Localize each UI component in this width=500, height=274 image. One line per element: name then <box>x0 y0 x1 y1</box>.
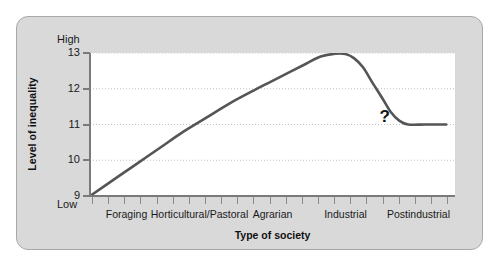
x-tick-mark <box>92 197 93 204</box>
x-tick-mark <box>447 197 448 204</box>
chart-figure: High Low Level of inequality 131211109 F… <box>0 0 500 274</box>
x-tick-mark <box>366 197 367 204</box>
x-tick-mark <box>221 197 222 204</box>
x-tick-mark <box>108 197 109 204</box>
y-tick-value: 12 <box>58 83 80 94</box>
x-tick-mark <box>205 197 206 204</box>
y-tick-value: 13 <box>58 47 80 58</box>
x-tick-mark <box>318 197 319 204</box>
y-tick-label: 9 <box>58 190 80 201</box>
x-axis-title: Type of society <box>90 229 455 241</box>
x-tick-mark <box>334 197 335 204</box>
x-tick-mark <box>173 197 174 204</box>
gridlines <box>90 53 455 196</box>
x-category-horticultural-pastoral: Horticultural/Pastoral <box>151 208 248 220</box>
y-tick-value: 9 <box>58 190 80 201</box>
question-mark-annotation: ? <box>379 108 389 125</box>
x-category-agrarian: Agrarian <box>253 208 293 220</box>
x-tick-mark <box>383 197 384 204</box>
x-tick-mark <box>124 197 125 204</box>
y-tick-value: 10 <box>58 154 80 165</box>
x-axis-line <box>89 195 455 197</box>
x-tick-mark <box>286 197 287 204</box>
x-tick-mark <box>350 197 351 204</box>
y-tick-value: 11 <box>58 119 80 130</box>
x-tick-mark <box>157 197 158 204</box>
y-tick-label: 10 <box>58 154 80 165</box>
x-category-industrial: Industrial <box>324 208 367 220</box>
x-tick-mark <box>302 197 303 204</box>
y-tick-mark <box>83 159 90 161</box>
x-tick-mark <box>431 197 432 204</box>
x-tick-mark <box>270 197 271 204</box>
y-tick-label: 12 <box>58 83 80 94</box>
plot-svg <box>90 53 455 196</box>
x-category-postindustrial: Postindustrial <box>387 208 450 220</box>
x-tick-mark <box>415 197 416 204</box>
x-tick-mark <box>253 197 254 204</box>
x-category-foraging: Foraging <box>106 208 147 220</box>
y-tick-label: 13 <box>58 47 80 58</box>
x-tick-mark <box>140 197 141 204</box>
series-line-inequality <box>90 53 446 196</box>
y-tick-mark <box>83 124 90 126</box>
x-tick-mark <box>237 197 238 204</box>
y-tick-mark <box>83 88 90 90</box>
y-tick-label: 11 <box>58 119 80 130</box>
y-axis-high-label: High <box>57 33 80 45</box>
x-tick-mark <box>399 197 400 204</box>
y-axis-title: Level of inequality <box>26 64 38 184</box>
y-tick-mark <box>83 195 90 197</box>
plot-area <box>90 53 455 196</box>
x-tick-mark <box>189 197 190 204</box>
y-tick-mark <box>83 52 90 54</box>
